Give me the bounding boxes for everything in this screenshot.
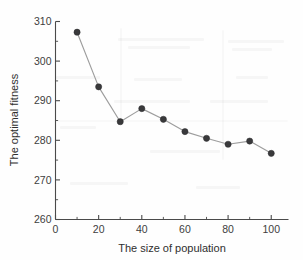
data-point: 50, 285.3: [160, 116, 166, 122]
x-tick-label: 40: [136, 223, 148, 235]
chart-figure: 260270280290300310020406080100 10, 307.3…: [0, 0, 303, 260]
chart-series-line: [77, 32, 271, 153]
y-axis-label: The optimal fitness: [8, 73, 20, 166]
y-tick-label: 260: [34, 213, 52, 225]
data-point: 60, 282.2: [182, 128, 188, 134]
data-point: 80, 279: [225, 141, 231, 147]
x-tick-label: 60: [179, 223, 191, 235]
data-point: 70, 280.5: [203, 135, 209, 141]
data-point: 20, 293.5: [96, 84, 102, 90]
x-tick-label: 20: [93, 223, 105, 235]
x-tick-label: 100: [262, 223, 280, 235]
chart-plot-svg: 260270280290300310020406080100 10, 307.3…: [0, 0, 303, 260]
y-tick-label: 310: [34, 15, 52, 27]
y-tick-label: 290: [34, 94, 52, 106]
chart-axes: [56, 22, 289, 220]
x-tick-label: 0: [53, 223, 59, 235]
y-tick-label: 300: [34, 55, 52, 67]
y-tick-label: 280: [34, 134, 52, 146]
data-point: 100, 276.7: [268, 150, 274, 156]
data-point: 90, 279.8: [247, 138, 253, 144]
data-point: 10, 307.3: [74, 29, 80, 35]
series-polyline: [77, 32, 271, 153]
chart-tick-labels: 260270280290300310020406080100: [34, 15, 280, 234]
chart-series-markers: 10, 307.320, 293.530, 284.740, 28850, 28…: [74, 29, 274, 156]
data-point: 30, 284.7: [117, 119, 123, 125]
x-axis-label: The size of population: [118, 242, 226, 254]
data-point: 40, 288: [139, 106, 145, 112]
x-tick-label: 80: [222, 223, 234, 235]
y-tick-label: 270: [34, 174, 52, 186]
